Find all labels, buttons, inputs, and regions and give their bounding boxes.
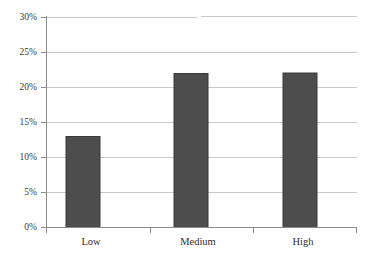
y-axis-label-30: 30% — [20, 12, 38, 22]
bar-medium — [174, 74, 208, 228]
y-axis-label-15: 15% — [20, 117, 38, 127]
y-axis-label-0: 0% — [24, 222, 37, 232]
x-axis-label-low: Low — [81, 236, 101, 247]
x-axis-label-high: High — [293, 236, 315, 247]
x-axis-label-medium: Medium — [180, 236, 216, 247]
y-axis-label-5: 5% — [24, 187, 37, 197]
bar-high — [283, 73, 317, 228]
y-axis-label-10: 10% — [20, 152, 38, 162]
y-axis-label-25: 25% — [20, 47, 38, 57]
bar-chart: 30% 25% 20% 15% 10% 5% 0% Low Medium Hig… — [0, 0, 367, 259]
y-axis-label-20: 20% — [20, 82, 38, 92]
bar-low — [66, 137, 100, 228]
